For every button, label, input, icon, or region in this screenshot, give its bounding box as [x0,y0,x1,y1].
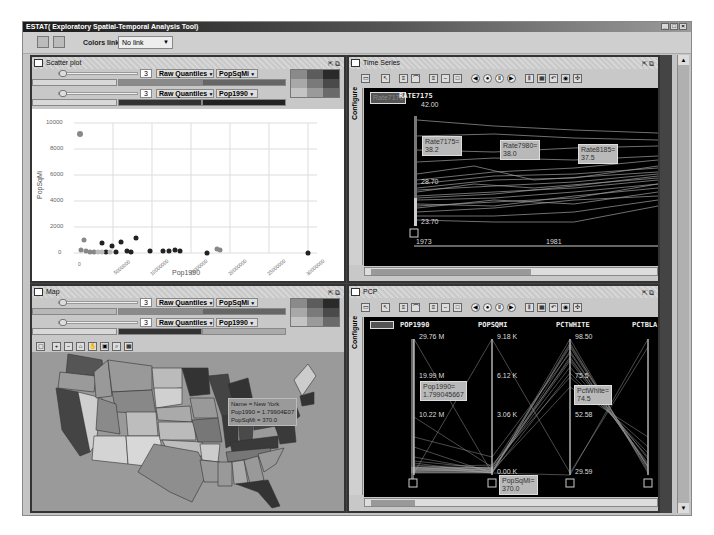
line-mode-icon[interactable]: ≡ [399,74,408,83]
maximize-pane-icon[interactable]: ⇱⧉ [642,287,655,299]
map-title-bar[interactable]: Map ⇱⧉ [32,286,344,298]
settings-icon[interactable]: ✣ [573,74,582,83]
range-bar[interactable] [32,328,117,335]
undo-icon[interactable]: ↶ [549,74,558,83]
range-bar[interactable] [202,308,286,315]
identify-icon[interactable]: ⌕ [112,342,121,351]
class-count[interactable]: 3 [140,298,152,307]
pane-checkbox[interactable] [351,59,360,67]
range-bar[interactable] [118,328,202,335]
full-extent-icon[interactable]: ⌂ [76,342,85,351]
axes-icon[interactable]: ⫴ [525,303,534,312]
scroll-down-arrow[interactable]: ▼ [678,503,689,513]
table-icon[interactable]: ▦ [124,342,133,351]
record-icon[interactable]: ◉ [561,303,570,312]
grid-icon[interactable]: ▦ [537,74,546,83]
horizontal-scrollbar[interactable] [364,498,658,507]
class-slider[interactable] [58,321,138,324]
pan-icon[interactable]: ✋ [88,342,97,351]
slider-knob[interactable] [59,319,67,326]
settings-icon[interactable]: ✣ [573,303,582,312]
axes-icon[interactable]: ⫴ [525,74,534,83]
variable-chip[interactable] [370,321,394,329]
time-series-chart[interactable]: Rate7175 RATE7175 42.00 28.70 23.70 1973… [364,88,658,266]
class-slider[interactable] [58,301,138,304]
class-count[interactable]: 3 [140,69,152,78]
pane-checkbox[interactable] [34,59,43,67]
zoom-in-icon[interactable]: + [52,342,61,351]
minus-icon[interactable]: − [441,74,450,83]
play-icon[interactable]: ▶ [507,303,516,312]
box-icon[interactable]: □ [453,303,462,312]
range-bar[interactable] [202,328,286,335]
variable-select[interactable]: Pop1990 [216,89,258,98]
stop-icon[interactable]: ● [483,303,492,312]
maximize-button[interactable]: □ [670,23,678,30]
open-icon[interactable]: ▭ [361,303,370,312]
variable-select[interactable]: PopSqMi [216,298,258,307]
classification-method-select[interactable]: Raw Quantiles [156,69,214,78]
open-icon[interactable]: ▭ [361,74,370,83]
slider-knob[interactable] [59,299,67,306]
time-series-title-bar[interactable]: Time Series ⇱⧉ [349,57,658,69]
box-icon[interactable]: □ [453,74,462,83]
close-button[interactable]: × [679,23,687,30]
range-bar[interactable] [32,79,117,86]
classification-method-select[interactable]: Raw Quantiles [156,298,214,307]
curve-mode-icon[interactable]: ⌒ [411,74,420,83]
scroll-up-arrow[interactable]: ▲ [678,55,689,65]
scatter-chart[interactable]: 10000 8000 6000 4000 2000 0 PopSqMi Pop1… [32,109,344,281]
curve-mode-icon[interactable]: ⌒ [411,303,420,312]
select-icon[interactable]: ↖ [381,74,390,83]
play-back-icon[interactable]: ◀ [471,74,480,83]
class-count[interactable]: 3 [140,318,152,327]
map-canvas[interactable]: Name = New York Pop1990 = 1.79904E07 Pop… [32,352,344,511]
slider-knob[interactable] [59,70,67,77]
play-icon[interactable]: ▶ [507,74,516,83]
pane-checkbox[interactable] [351,288,360,296]
range-bar[interactable] [202,99,286,106]
play-back-icon[interactable]: ◀ [471,303,480,312]
maximize-pane-icon[interactable]: ⇱⧉ [642,58,655,70]
pcp-chart[interactable]: POP1990 POPSQMI PCTWHITE PCTBLA 29.76 M … [364,317,658,497]
class-count[interactable]: 3 [140,89,152,98]
export-icon[interactable]: ▣ [100,342,109,351]
horizontal-scrollbar[interactable] [364,267,658,276]
pane-checkbox[interactable] [34,288,43,296]
stop-icon[interactable]: ● [483,74,492,83]
select-icon[interactable]: ↖ [381,303,390,312]
zoom-out-icon[interactable]: − [64,342,73,351]
configure-tab[interactable]: Configure [349,317,363,495]
range-bar[interactable] [32,99,117,106]
range-bar[interactable] [32,308,117,315]
layout-icon[interactable] [53,36,65,48]
class-slider[interactable] [58,72,138,75]
pcp-title-bar[interactable]: PCP ⇱⧉ [349,286,658,298]
colors-link-select[interactable]: No link [118,36,173,49]
scroll-thumb[interactable] [371,269,531,275]
minus-icon[interactable]: − [441,303,450,312]
configure-tab[interactable]: Configure [349,88,363,265]
undo-icon[interactable]: ↶ [549,303,558,312]
align-icon[interactable]: ≡ [429,74,438,83]
record-icon[interactable]: ◉ [561,74,570,83]
variable-select[interactable]: Pop1990 [216,318,258,327]
classification-method-select[interactable]: Raw Quantiles [156,318,214,327]
align-icon[interactable]: ≡ [429,303,438,312]
range-bar[interactable] [118,308,202,315]
select-icon[interactable]: ▢ [36,342,45,351]
variable-select[interactable]: PopSqMi [216,69,258,78]
scatter-title-bar[interactable]: Scatter plot ⇱⧉ [32,57,344,69]
slider-knob[interactable] [59,90,67,97]
grid-icon[interactable]: ▦ [537,303,546,312]
pause-icon[interactable]: Ⅱ [495,74,504,83]
pause-icon[interactable]: Ⅱ [495,303,504,312]
classification-method-select[interactable]: Raw Quantiles [156,89,214,98]
line-mode-icon[interactable]: ≡ [399,303,408,312]
range-bar[interactable] [118,99,202,106]
scroll-thumb[interactable] [371,500,415,506]
range-bar[interactable] [202,79,286,86]
vertical-scrollbar[interactable]: ▲ ▼ [677,55,689,513]
class-slider[interactable] [58,92,138,95]
minimize-button[interactable]: _ [661,23,669,30]
